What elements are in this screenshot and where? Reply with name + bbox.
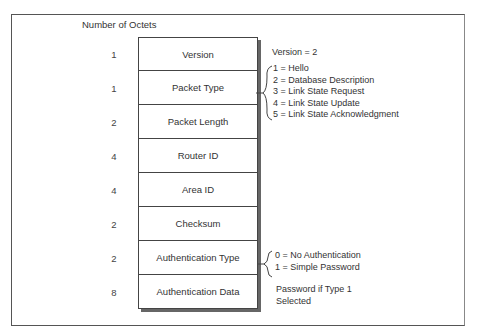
field-version: Version (138, 37, 258, 71)
octets-version: 1 (104, 49, 124, 60)
field-packet-length: Packet Length (138, 105, 258, 139)
octets-authentication-type: 2 (104, 253, 124, 264)
auth-type-1: 1 = Simple Password (275, 262, 361, 274)
field-authentication-type: Authentication Type (138, 241, 258, 275)
octets-packet-length: 2 (104, 117, 124, 128)
packet-type-5: 5 = Link State Acknowledgment (273, 109, 399, 121)
field-packet-type: Packet Type (138, 71, 258, 105)
auth-data-note-line2: Selected (276, 296, 352, 308)
auth-data-note-line1: Password if Type 1 (276, 284, 352, 296)
octets-header: Number of Octets (82, 19, 156, 30)
packet-type-4: 4 = Link State Update (273, 98, 399, 110)
packet-type-list: 1 = Hello 2 = Database Description 3 = L… (273, 63, 399, 121)
auth-data-note: Password if Type 1 Selected (276, 284, 352, 307)
auth-type-0: 0 = No Authentication (275, 250, 361, 262)
version-note: Version = 2 (272, 47, 317, 59)
octets-checksum: 2 (104, 219, 124, 230)
field-router-id: Router ID (138, 139, 258, 173)
auth-type-list: 0 = No Authentication 1 = Simple Passwor… (275, 250, 361, 273)
field-authentication-data: Authentication Data (138, 275, 258, 309)
octets-authentication-data: 8 (104, 287, 124, 298)
packet-type-3: 3 = Link State Request (273, 86, 399, 98)
field-checksum: Checksum (138, 207, 258, 241)
octets-router-id: 4 (104, 151, 124, 162)
packet-type-brace-icon (256, 65, 274, 121)
octets-packet-type: 1 (104, 83, 124, 94)
octets-area-id: 4 (104, 185, 124, 196)
packet-header-stack: Version Packet Type Packet Length Router… (138, 37, 258, 309)
field-area-id: Area ID (138, 173, 258, 207)
packet-type-1: 1 = Hello (273, 63, 399, 75)
auth-type-brace-icon (258, 250, 274, 278)
packet-type-2: 2 = Database Description (273, 75, 399, 87)
